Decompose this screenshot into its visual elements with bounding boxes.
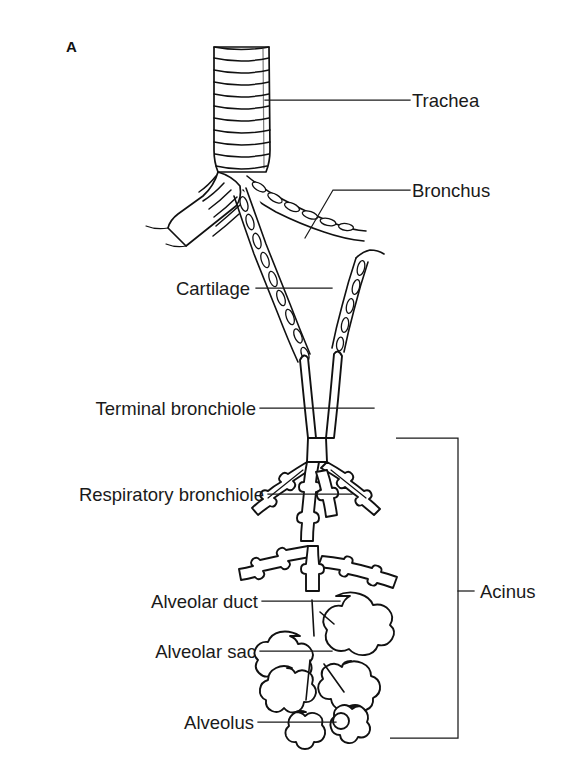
label-trachea: Trachea	[412, 90, 480, 111]
left-bronchus-tube	[168, 172, 241, 246]
alveolar-sac-bottom-center	[285, 711, 325, 749]
label-cartilage: Cartilage	[176, 278, 250, 299]
left-main-bronchus	[146, 172, 241, 247]
terminal-bronchiole-trunk	[307, 438, 327, 462]
label-alveolar-duct: Alveolar duct	[151, 591, 258, 612]
terminal-bronchiole-structure	[300, 351, 342, 462]
alveolar-duct-left	[239, 546, 310, 580]
alveolar-sac-cluster	[254, 592, 394, 749]
trachea-structure	[214, 47, 270, 172]
terminal-bronchiole-left	[300, 355, 316, 438]
right-main-bronchus	[234, 176, 366, 362]
alveolar-duct-right	[318, 556, 397, 588]
label-terminal-bronchiole: Terminal bronchiole	[96, 398, 256, 419]
single-alveolus	[333, 713, 349, 729]
panel-letter-a: A	[66, 38, 77, 55]
alveolar-duct-structure	[239, 546, 397, 591]
secondary-bronchus-branch	[330, 250, 384, 352]
label-respiratory-bronchiole: Respiratory bronchiole	[79, 484, 264, 505]
label-acinus: Acinus	[480, 581, 536, 602]
figure-canvas: A	[0, 0, 568, 772]
terminal-bronchiole-right	[326, 351, 342, 438]
label-bronchus: Bronchus	[412, 180, 490, 201]
respiratory-bronchiole-structure	[252, 462, 380, 541]
label-alveolar-sac: Alveolar sac	[155, 641, 256, 662]
acinus-bracket	[390, 438, 458, 738]
respiratory-tract-figure: A	[0, 0, 568, 772]
acinus-bracket-group	[390, 438, 474, 738]
label-alveolus: Alveolus	[184, 712, 254, 733]
